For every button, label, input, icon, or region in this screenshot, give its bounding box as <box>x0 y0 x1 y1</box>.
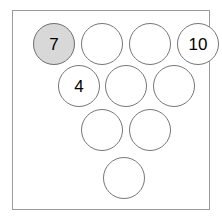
pin-circle-empty[interactable] <box>81 109 123 151</box>
pin-circle-empty[interactable] <box>129 23 171 65</box>
pin-label: 4 <box>74 78 83 95</box>
pin-circle-empty[interactable] <box>129 109 171 151</box>
pin-circle-empty[interactable] <box>153 65 195 107</box>
diagram-frame: 7104 <box>12 10 210 210</box>
pin-circle-4[interactable]: 4 <box>58 65 100 107</box>
pin-circle-10[interactable]: 10 <box>177 23 219 65</box>
pin-circle-empty[interactable] <box>105 65 147 107</box>
pin-circle-empty[interactable] <box>103 157 145 199</box>
diagram-canvas: 7104 <box>0 0 222 220</box>
pin-circle-7[interactable]: 7 <box>33 23 75 65</box>
pin-circle-empty[interactable] <box>81 23 123 65</box>
pin-label: 7 <box>49 36 58 53</box>
pin-label: 10 <box>189 36 208 53</box>
